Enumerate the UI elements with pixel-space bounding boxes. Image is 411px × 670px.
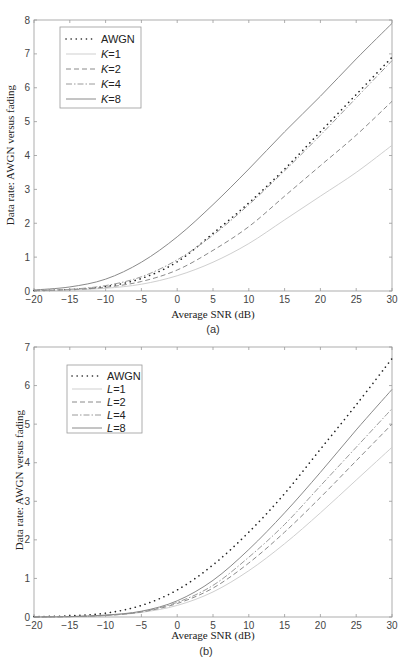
x-tick-label: 5 — [210, 294, 216, 305]
y-tick-label: 3 — [24, 184, 30, 195]
legend-label: L=8 — [107, 422, 126, 434]
legend-label: K=8 — [101, 93, 121, 105]
x-tick-label: 25 — [351, 620, 363, 631]
y-tick-label: 6 — [24, 82, 30, 93]
y-tick-label: 4 — [24, 150, 30, 161]
legend-label: L=2 — [107, 396, 126, 408]
x-tick-label: 20 — [315, 620, 327, 631]
panel-caption-b: (b) — [199, 645, 212, 657]
x-tick-label: 30 — [386, 620, 398, 631]
y-tick-label: 7 — [24, 48, 30, 59]
legend-label: L=1 — [107, 383, 126, 395]
y-tick-label: 3 — [24, 496, 30, 507]
y-tick-label: 6 — [24, 380, 30, 391]
y-tick-label: 5 — [24, 116, 30, 127]
x-tick-label: 15 — [279, 620, 291, 631]
y-tick-label: 0 — [24, 612, 30, 623]
legend-label: K=2 — [101, 63, 121, 75]
x-tick-label: −5 — [136, 620, 148, 631]
y-tick-label: 0 — [24, 286, 30, 297]
x-tick-label: −15 — [61, 620, 78, 631]
chart-b: −20−15−10−505101520253001234567 AWGNL=1L… — [13, 342, 398, 658]
y-tick-label: 4 — [24, 457, 30, 468]
x-tick-label: 0 — [174, 294, 180, 305]
x-tick-label: −15 — [61, 294, 78, 305]
legend-label: K=4 — [101, 78, 121, 90]
x-axis-label-b: Average SNR (dB) — [171, 629, 255, 642]
y-tick-label: 5 — [24, 419, 30, 430]
chart-a: −20−15−10−5051015202530012345678 AWGNK=1… — [4, 15, 398, 336]
x-tick-label: −10 — [97, 294, 114, 305]
x-tick-label: 30 — [386, 294, 398, 305]
x-axis-label-a: Average SNR (dB) — [171, 308, 255, 321]
legend-label: K=1 — [101, 48, 121, 60]
legend-label: AWGN — [101, 33, 135, 45]
x-tick-label: −5 — [136, 294, 148, 305]
panel-caption-a: (a) — [206, 323, 219, 335]
x-tick-label: 10 — [243, 294, 255, 305]
y-axis-label-a: Data rate: AWGN versus fading — [4, 84, 16, 225]
legend-b: AWGNL=1L=2L=4L=8 — [67, 365, 142, 434]
legend-label: AWGN — [107, 370, 141, 382]
x-tick-label: 20 — [315, 294, 327, 305]
y-tick-label: 2 — [24, 218, 30, 229]
y-tick-label: 8 — [24, 15, 30, 26]
legend-a: AWGNK=1K=2K=4K=8 — [60, 27, 141, 108]
y-axis-label-b: Data rate: AWGN versus fading — [13, 409, 25, 550]
y-tick-label: 1 — [24, 252, 30, 263]
y-tick-label: 2 — [24, 534, 30, 545]
figure: −20−15−10−5051015202530012345678 AWGNK=1… — [0, 0, 411, 670]
x-tick-label: 15 — [279, 294, 291, 305]
y-tick-label: 7 — [24, 342, 30, 353]
y-tick-label: 1 — [24, 573, 30, 584]
x-tick-label: 25 — [351, 294, 363, 305]
legend-label: L=4 — [107, 409, 126, 421]
x-tick-label: −10 — [97, 620, 114, 631]
